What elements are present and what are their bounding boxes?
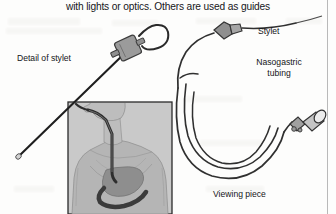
stylet-hub-flange-left (110, 50, 119, 58)
tubing-middle-loop (184, 84, 278, 169)
stylet-connector-cone (214, 22, 232, 39)
label-nasogastric-tubing-line1: Nasogastric (256, 57, 301, 67)
nasogastric-tubing (176, 23, 296, 178)
viewing-piece-nub-side (298, 128, 302, 132)
label-viewing-piece: Viewing piece (213, 189, 266, 200)
viewing-piece (290, 108, 328, 132)
anatomical-inset (68, 88, 172, 214)
label-detail-of-stylet: Detail of stylet (17, 53, 71, 64)
viewing-piece-nub-lower (292, 127, 297, 132)
figure-artwork (0, 0, 336, 214)
tubing-upper-left (178, 33, 214, 88)
stylet-hub-body (114, 34, 142, 61)
stylet-loop (139, 25, 168, 50)
tubing-crossover (180, 74, 198, 79)
figure-nasogastric-tube: with lights or optics. Others are used a… (0, 0, 336, 214)
stylet-hub-flange-right (136, 38, 145, 46)
stylet-connector-collar (230, 24, 242, 34)
page-column-rule (327, 0, 328, 214)
stylet-leader-line (296, 16, 322, 23)
label-stylet: Stylet (258, 26, 280, 37)
label-nasogastric-tubing-line2: tubing (267, 68, 290, 78)
tubing-inner-loop (192, 92, 270, 164)
label-nasogastric-tubing: Nasogastric tubing (246, 57, 312, 78)
stylet-connector (214, 22, 242, 39)
